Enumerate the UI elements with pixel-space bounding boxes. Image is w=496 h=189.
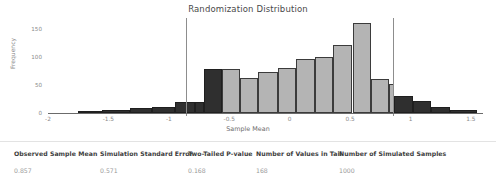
summary-column-value: 0.168	[188, 167, 253, 174]
summary-column-value: 0.857	[14, 167, 97, 174]
y-axis-tick-label: 50	[35, 82, 42, 88]
y-axis-tick-label: 150	[31, 26, 42, 32]
summary-column-value: 168	[256, 167, 342, 174]
summary-column: Number of Simulated Samples1000	[339, 150, 446, 174]
summary-column-value: 0.571	[100, 167, 193, 174]
summary-column: Two-Tailed P-value0.168	[188, 150, 253, 174]
summary-column: Number of Values in Tail168	[256, 150, 342, 174]
x-axis-tick-label: 0	[288, 116, 292, 122]
histogram-chart: Randomization Distribution 050100150 Fre…	[0, 0, 496, 140]
y-axis-tick-label: 0	[38, 110, 42, 116]
summary-column-header: Simulation Standard Error	[100, 150, 193, 157]
lower-tail-cutoff-line	[186, 18, 187, 116]
histogram-bar	[296, 59, 315, 113]
randomization-distribution-panel: Randomization Distribution 050100150 Fre…	[0, 0, 496, 189]
summary-column: Simulation Standard Error0.571	[100, 150, 193, 174]
summary-column-header: Number of Simulated Samples	[339, 150, 446, 157]
y-axis-tick-label: 100	[31, 54, 42, 60]
x-axis-tick-label: 1	[409, 116, 413, 122]
histogram-bar	[222, 69, 240, 113]
histogram-bar	[278, 68, 296, 113]
histogram-bar	[315, 57, 333, 113]
histogram-bar	[413, 101, 431, 113]
summary-statistics-table: Observed Sample Mean0.857Simulation Stan…	[0, 142, 496, 189]
x-axis-tick-label: 1.5	[466, 116, 475, 122]
summary-column-header: Number of Values in Tail	[256, 150, 342, 157]
summary-column-header: Observed Sample Mean	[14, 150, 97, 157]
summary-column-header: Two-Tailed P-value	[188, 150, 253, 157]
summary-column: Observed Sample Mean0.857	[14, 150, 97, 174]
y-axis-ticks: 050100150	[0, 18, 42, 113]
histogram-bar	[258, 72, 277, 113]
x-axis-label: Sample Mean	[0, 125, 496, 133]
summary-column-value: 1000	[339, 167, 446, 174]
x-axis-tick-label: 0.5	[345, 116, 354, 122]
observed-sample-mean-line	[393, 18, 394, 116]
chart-title: Randomization Distribution	[0, 4, 496, 14]
histogram-bar	[195, 102, 203, 113]
x-axis-tick-label: -2	[45, 116, 51, 122]
y-axis-label: Frequency	[9, 24, 16, 84]
histogram-bar	[333, 45, 352, 113]
histogram-bar	[204, 69, 222, 113]
x-axis-line	[48, 113, 483, 114]
histogram-bar	[353, 23, 371, 113]
histogram-bar	[240, 78, 258, 113]
x-axis-tick-label: -1.5	[103, 116, 114, 122]
x-axis-tick-label: -0.5	[224, 116, 235, 122]
x-axis-tick-label: -1	[166, 116, 172, 122]
histogram-bar	[394, 96, 413, 113]
histogram-bar	[371, 79, 389, 113]
plot-area	[48, 18, 483, 113]
